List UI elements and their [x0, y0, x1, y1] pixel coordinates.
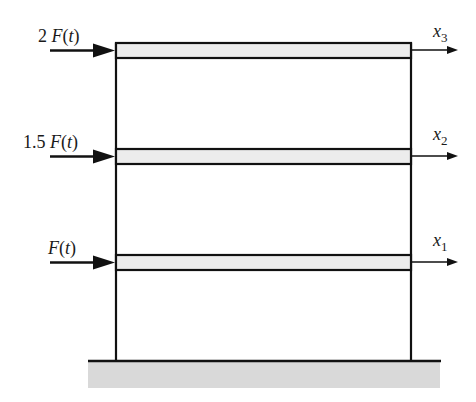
displacement-arrow-floor-2 — [411, 152, 458, 160]
floor-2-beam — [116, 149, 411, 164]
displacement-label-floor-3: x3 — [432, 21, 448, 45]
force-label-floor-1: F(t) — [47, 238, 76, 259]
floor-1-beam — [116, 255, 411, 270]
arrowhead-icon — [93, 150, 115, 164]
force-label-floor-3: 2 F(t) — [38, 26, 80, 47]
floor-2: 1.5 F(t) x2 — [23, 124, 458, 164]
force-label-floor-2: 1.5 F(t) — [23, 132, 78, 153]
displacement-symbol: x — [432, 124, 441, 144]
displacement-subscript: 1 — [441, 239, 448, 254]
floor-3-beam — [116, 43, 411, 58]
ground — [88, 361, 441, 388]
displacement-subscript: 3 — [441, 30, 448, 45]
displacement-label-floor-1: x1 — [432, 230, 448, 254]
displacement-subscript: 2 — [441, 133, 448, 148]
displacement-label-floor-2: x2 — [432, 124, 448, 148]
displacement-symbol: x — [432, 230, 441, 250]
arrowhead-icon — [447, 258, 458, 266]
arrowhead-icon — [93, 44, 115, 58]
floor-1: F(t) x1 — [47, 230, 458, 270]
floor-3: 2 F(t) x3 — [38, 21, 458, 58]
paren-close: ) — [72, 132, 78, 153]
displacement-symbol: x — [432, 21, 441, 41]
arrowhead-icon — [447, 46, 458, 54]
displacement-arrow-floor-3 — [411, 46, 458, 54]
paren-close: ) — [70, 238, 76, 259]
paren-close: ) — [74, 26, 80, 47]
shear-frame-diagram: 2 F(t) x3 1.5 F(t) x2 — [0, 0, 476, 402]
arrowhead-icon — [93, 256, 115, 270]
displacement-arrow-floor-1 — [411, 258, 458, 266]
force-coefficient: 1.5 — [23, 132, 46, 152]
ground-fill — [88, 362, 440, 388]
force-coefficient: 2 — [38, 26, 47, 46]
arrowhead-icon — [447, 152, 458, 160]
